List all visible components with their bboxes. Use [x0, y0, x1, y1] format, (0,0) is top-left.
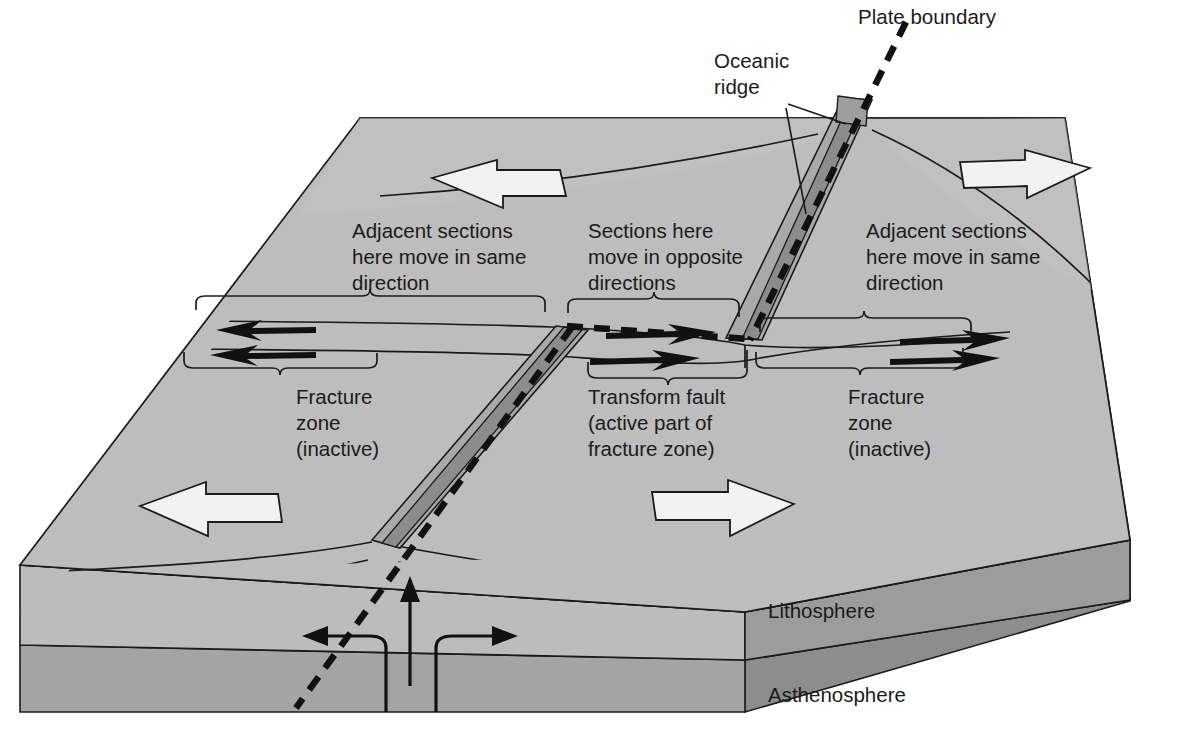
label-fracture-zone-left-line3: (inactive): [296, 437, 379, 460]
block-solid: [20, 118, 1130, 712]
label-sections-center-line1: Sections here: [588, 219, 713, 242]
block-diagram: Plate boundary Oceanic ridge Adjacent se…: [0, 0, 1182, 741]
label-plate-boundary: Plate boundary: [858, 5, 997, 28]
label-fracture-zone-right-line2: zone: [848, 411, 892, 434]
figure-canvas: Plate boundary Oceanic ridge Adjacent se…: [0, 0, 1182, 741]
label-sections-center-line3: directions: [588, 271, 676, 294]
label-oceanic-ridge-line2: ridge: [714, 75, 760, 98]
label-adjacent-right-line1: Adjacent sections: [866, 219, 1027, 242]
label-fracture-zone-right-line1: Fracture: [848, 385, 924, 408]
label-adjacent-left-line2: here move in same: [352, 245, 526, 268]
label-fracture-zone-left-line2: zone: [296, 411, 340, 434]
label-adjacent-left-line1: Adjacent sections: [352, 219, 513, 242]
label-transform-fault-line2: (active part of: [588, 411, 712, 434]
label-adjacent-right-line3: direction: [866, 271, 944, 294]
label-adjacent-right-line2: here move in same: [866, 245, 1040, 268]
label-sections-center-line2: move in opposite: [588, 245, 743, 268]
label-lithosphere: Lithosphere: [768, 599, 875, 622]
label-asthenosphere: Asthenosphere: [768, 683, 906, 706]
label-fracture-zone-left-line1: Fracture: [296, 385, 372, 408]
label-transform-fault-line1: Transform fault: [588, 385, 725, 408]
label-oceanic-ridge-line1: Oceanic: [714, 49, 789, 72]
label-adjacent-left-line3: direction: [352, 271, 430, 294]
label-fracture-zone-right-line3: (inactive): [848, 437, 931, 460]
label-transform-fault-line3: fracture zone): [588, 437, 714, 460]
